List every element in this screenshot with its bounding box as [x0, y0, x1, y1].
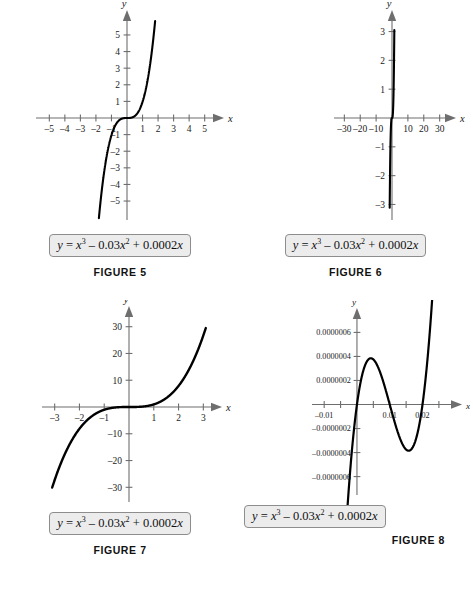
svg-text:x: x: [227, 113, 233, 124]
eq-term1-exp: 3: [276, 508, 280, 517]
eq-term3-coef: 0.0002: [378, 238, 412, 252]
figure-5-equation-box: y = x3 – 0.03x2 + 0.0002x: [49, 234, 191, 257]
figure-5-plot: xy–5–4–3–2–112345–5–4–3–2–112345: [0, 2, 240, 234]
eq-term3-coef: 0.0002: [143, 516, 177, 530]
svg-text:–3: –3: [110, 163, 121, 173]
eq-term3-base: x: [413, 238, 419, 252]
svg-text:x: x: [459, 113, 465, 124]
svg-text:–5: –5: [110, 196, 121, 206]
figure-5-equation-row: y = x3 – 0.03x2 + 0.0002x: [0, 234, 240, 257]
figure-8-caption: FIGURE 8: [238, 534, 473, 546]
svg-text:–0.0000004: –0.0000004: [311, 449, 351, 458]
svg-text:–4: –4: [59, 124, 70, 134]
svg-text:–1: –1: [374, 142, 385, 152]
svg-text:x: x: [465, 401, 470, 411]
figure-7-axes: xy–3–2–1123–30–20–10102030: [4, 300, 236, 512]
eq-term1-exp: 3: [82, 515, 86, 524]
figure-7-equation-row: y = x3 – 0.03x2 + 0.0002x: [0, 512, 240, 535]
textbook-figure-page: xy–5–4–3–2–112345–5–4–3–2–112345 y = x3 …: [0, 0, 473, 590]
figure-7-caption: FIGURE 7: [0, 544, 240, 556]
figure-6-plot: xy–30–20–10102030–3–2–1123: [238, 2, 473, 234]
svg-text:–10: –10: [107, 429, 123, 439]
svg-text:1: 1: [151, 413, 156, 423]
eq-term1-exp: 3: [317, 237, 321, 246]
svg-text:–1: –1: [98, 413, 109, 423]
eq-term2-exp: 2: [126, 515, 130, 524]
svg-text:y: y: [123, 300, 129, 305]
svg-text:3: 3: [380, 27, 385, 37]
figure-5-panel: xy–5–4–3–2–112345–5–4–3–2–112345 y = x3 …: [0, 2, 240, 298]
figure-6-panel: xy–30–20–10102030–3–2–1123 y = x3 – 0.03…: [238, 2, 473, 298]
svg-text:10: 10: [403, 124, 413, 134]
eq-term2-coef: 0.03: [98, 238, 120, 252]
eq-term3-base: x: [372, 509, 378, 523]
svg-text:30: 30: [113, 322, 123, 332]
svg-text:5: 5: [115, 30, 120, 40]
svg-text:5: 5: [202, 124, 207, 134]
eq-equals: =: [66, 516, 73, 530]
svg-text:–20: –20: [352, 124, 368, 134]
figure-6-equation-row: y = x3 – 0.03x2 + 0.0002x: [238, 234, 473, 257]
figure-8-axes: xy–0.010.010.02–0.0000006–0.0000004–0.00…: [242, 300, 470, 505]
svg-text:0.0000002: 0.0000002: [316, 376, 351, 385]
eq-term2-coef: 0.03: [293, 509, 315, 523]
figure-8-plot: xy–0.010.010.02–0.0000006–0.0000004–0.00…: [238, 300, 473, 505]
svg-text:–0.01: –0.01: [313, 411, 332, 420]
svg-text:1: 1: [380, 85, 385, 95]
svg-text:–2: –2: [110, 147, 121, 157]
figure-7-panel: xy–3–2–1123–30–20–10102030 y = x3 – 0.03…: [0, 300, 240, 590]
svg-text:10: 10: [113, 376, 123, 386]
svg-text:–30: –30: [336, 124, 352, 134]
figure-5-caption: FIGURE 5: [0, 266, 240, 278]
svg-text:–2: –2: [74, 413, 85, 423]
eq-equals: =: [261, 509, 268, 523]
eq-term3-sign: +: [133, 238, 140, 252]
svg-text:–4: –4: [110, 180, 121, 190]
svg-text:x: x: [225, 402, 231, 413]
eq-equals: =: [66, 238, 73, 252]
svg-text:2: 2: [156, 124, 161, 134]
svg-text:y: y: [385, 2, 391, 9]
figure-7-equation-box: y = x3 – 0.03x2 + 0.0002x: [49, 512, 191, 535]
eq-term2-sign: –: [89, 238, 95, 252]
svg-text:2: 2: [115, 80, 120, 90]
svg-text:–2: –2: [374, 171, 385, 181]
eq-term2-exp: 2: [320, 508, 324, 517]
eq-term3-base: x: [177, 516, 183, 530]
svg-text:–5: –5: [44, 124, 55, 134]
eq-term3-sign: +: [133, 516, 140, 530]
eq-equals: =: [301, 238, 308, 252]
eq-term2-exp: 2: [361, 237, 365, 246]
svg-text:1: 1: [115, 97, 120, 107]
svg-text:–0.0000006: –0.0000006: [311, 473, 351, 482]
svg-text:–20: –20: [107, 456, 123, 466]
eq-term2-sign: –: [89, 516, 95, 530]
svg-text:0.0000004: 0.0000004: [316, 352, 351, 361]
svg-text:y: y: [350, 300, 356, 307]
eq-lhs: y: [57, 516, 63, 530]
svg-text:2: 2: [176, 413, 181, 423]
svg-text:3: 3: [115, 64, 120, 74]
eq-term2-coef: 0.03: [98, 516, 120, 530]
svg-text:0.01: 0.01: [382, 411, 396, 420]
figure-6-axes: xy–30–20–10102030–3–2–1123: [242, 2, 470, 234]
svg-text:–10: –10: [367, 124, 383, 134]
svg-text:20: 20: [419, 124, 429, 134]
eq-term3-coef: 0.0002: [338, 509, 372, 523]
svg-text:30: 30: [434, 124, 444, 134]
figure-8-panel: xy–0.010.010.02–0.0000006–0.0000004–0.00…: [238, 300, 473, 590]
eq-lhs: y: [293, 238, 299, 252]
svg-text:1: 1: [140, 124, 145, 134]
eq-term1-exp: 3: [82, 237, 86, 246]
figure-5-axes: xy–5–4–3–2–112345–5–4–3–2–112345: [4, 2, 236, 234]
eq-term3-sign: +: [328, 509, 335, 523]
figure-6-equation-box: y = x3 – 0.03x2 + 0.0002x: [285, 234, 427, 257]
svg-text:2: 2: [380, 56, 385, 66]
eq-term2-sign: –: [284, 509, 290, 523]
svg-text:–2: –2: [90, 124, 101, 134]
eq-term2-exp: 2: [126, 237, 130, 246]
svg-text:4: 4: [187, 124, 192, 134]
figure-6-caption: FIGURE 6: [238, 266, 473, 278]
figure-8-equation-row: y = x3 – 0.03x2 + 0.0002x: [238, 505, 473, 528]
eq-lhs: y: [57, 238, 63, 252]
